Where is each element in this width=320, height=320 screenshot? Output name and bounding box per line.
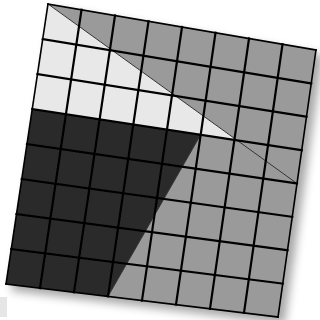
- grid-square: [6, 4, 316, 317]
- grid-diagram: [0, 0, 320, 320]
- corner-swatch: [0, 297, 7, 317]
